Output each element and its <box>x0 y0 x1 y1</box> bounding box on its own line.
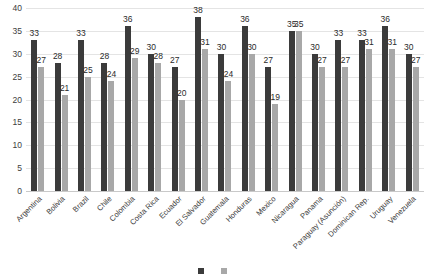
bar: 35 <box>289 31 295 191</box>
bar-value-label: 33 <box>76 29 85 38</box>
bar: 30 <box>312 54 318 191</box>
bar-value-label: 33 <box>334 29 343 38</box>
bar: 30 <box>249 54 255 191</box>
legend-swatch <box>198 268 204 274</box>
y-tick-label: 30 <box>13 49 22 59</box>
bar-value-label: 31 <box>200 38 209 47</box>
x-tick-label: Brazil <box>71 195 90 214</box>
x-axis-labels: ArgentinaBoliviaBrazilChileColombiaCosta… <box>26 193 424 253</box>
bar-value-label: 35 <box>294 20 303 29</box>
y-tick-label: 5 <box>17 163 22 173</box>
bar-group: 3831 <box>190 8 213 191</box>
bar: 24 <box>108 81 114 191</box>
bar-value-label: 27 <box>317 56 326 65</box>
x-tick-label: Bolivia <box>45 195 66 216</box>
bar-group: 3630 <box>237 8 260 191</box>
x-tick-label: Chile <box>96 195 114 213</box>
bar: 27 <box>265 67 271 191</box>
bar: 30 <box>148 54 154 191</box>
bar-value-label: 20 <box>177 89 186 98</box>
bar-group: 3028 <box>143 8 166 191</box>
bar-group: 3327 <box>330 8 353 191</box>
plot-area: 3327282133252824362930282720383130243630… <box>26 8 424 191</box>
bar-value-label: 31 <box>364 38 373 47</box>
x-tick-label: Argentina <box>15 195 44 224</box>
bar-value-label: 38 <box>193 6 202 15</box>
gridline <box>26 191 424 192</box>
bar-group: 3535 <box>283 8 306 191</box>
bar: 31 <box>366 49 372 191</box>
bar-value-label: 19 <box>271 93 280 102</box>
y-tick-label: 15 <box>13 117 22 127</box>
bar-value-label: 33 <box>29 29 38 38</box>
bar-group: 3327 <box>26 8 49 191</box>
bar: 27 <box>413 67 419 191</box>
y-tick-label: 40 <box>13 3 22 13</box>
bar-groups: 3327282133252824362930282720383130243630… <box>26 8 424 191</box>
bar-group: 2720 <box>166 8 189 191</box>
bar-value-label: 28 <box>100 52 109 61</box>
bar-chart: 0510152025303540 33272821332528243629302… <box>0 0 428 277</box>
bar-value-label: 36 <box>381 15 390 24</box>
bar-group: 2719 <box>260 8 283 191</box>
bar-group: 2824 <box>96 8 119 191</box>
bar: 27 <box>342 67 348 191</box>
bar-value-label: 27 <box>264 56 273 65</box>
y-tick-label: 25 <box>13 72 22 82</box>
legend-item[interactable] <box>221 268 230 274</box>
bar: 19 <box>272 104 278 191</box>
bar: 21 <box>62 95 68 191</box>
bar: 28 <box>101 63 107 191</box>
bar: 27 <box>38 67 44 191</box>
bar-group: 3325 <box>73 8 96 191</box>
legend-swatch <box>221 268 227 274</box>
bar: 29 <box>132 58 138 191</box>
bar: 24 <box>225 81 231 191</box>
bar-value-label: 28 <box>154 52 163 61</box>
bar-value-label: 28 <box>53 52 62 61</box>
bar-value-label: 30 <box>310 43 319 52</box>
bar-group: 3631 <box>377 8 400 191</box>
bar-group: 3027 <box>307 8 330 191</box>
bar: 31 <box>389 49 395 191</box>
bar-value-label: 27 <box>341 56 350 65</box>
bar-value-label: 30 <box>217 43 226 52</box>
bar-value-label: 21 <box>60 84 69 93</box>
bar-value-label: 29 <box>130 47 139 56</box>
bar: 28 <box>155 63 161 191</box>
bar-value-label: 30 <box>404 43 413 52</box>
bar-value-label: 36 <box>123 15 132 24</box>
bar-value-label: 25 <box>83 66 92 75</box>
bar-value-label: 36 <box>240 15 249 24</box>
legend-item[interactable] <box>198 268 207 274</box>
bar: 33 <box>78 40 84 191</box>
bar: 36 <box>382 26 388 191</box>
y-tick-label: 20 <box>13 95 22 105</box>
bar-group: 3331 <box>354 8 377 191</box>
bar: 27 <box>319 67 325 191</box>
bar-group: 3024 <box>213 8 236 191</box>
bar-value-label: 31 <box>388 38 397 47</box>
bar: 35 <box>296 31 302 191</box>
y-tick-label: 35 <box>13 26 22 36</box>
bar-group: 3027 <box>401 8 424 191</box>
bar: 33 <box>359 40 365 191</box>
bar: 25 <box>85 77 91 191</box>
bar-group: 3629 <box>120 8 143 191</box>
y-tick-label: 10 <box>13 140 22 150</box>
bar-value-label: 24 <box>224 70 233 79</box>
bar-value-label: 27 <box>36 56 45 65</box>
bar-value-label: 30 <box>247 43 256 52</box>
bar-value-label: 27 <box>411 56 420 65</box>
y-axis: 0510152025303540 <box>0 8 24 191</box>
bar: 20 <box>179 100 185 192</box>
bar: 27 <box>172 67 178 191</box>
bar-value-label: 27 <box>170 56 179 65</box>
bar: 31 <box>202 49 208 191</box>
bar-value-label: 24 <box>107 70 116 79</box>
chart-legend <box>0 268 428 277</box>
bar-group: 2821 <box>49 8 72 191</box>
bar: 30 <box>406 54 412 191</box>
y-tick-label: 0 <box>17 186 22 196</box>
